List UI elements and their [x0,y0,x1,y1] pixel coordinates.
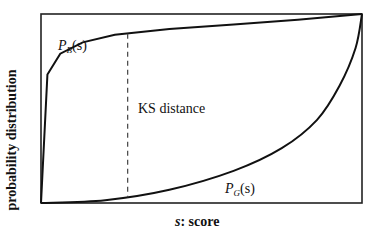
x-axis-label: s: score [175,214,219,230]
y-axis-label: probability distribution [2,60,22,220]
pg-label: PG(s) [225,181,255,198]
pb-label: PB(s) [58,38,87,55]
chart-canvas [0,0,381,239]
ks-distance-label: KS distance [138,101,205,117]
